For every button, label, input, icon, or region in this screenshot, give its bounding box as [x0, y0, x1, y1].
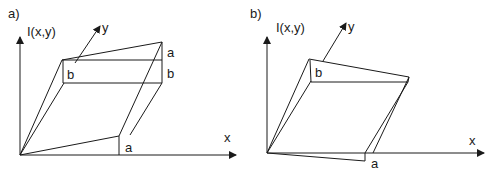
- y-axis-label: y: [348, 19, 355, 34]
- edge-label-b-left: b: [315, 65, 322, 80]
- edge-label-b-right: b: [167, 66, 174, 81]
- intensity-axis-label: I(x,y): [276, 20, 305, 35]
- y-axis: [323, 23, 346, 61]
- edge-label-a-bottom: a: [371, 156, 379, 171]
- panel-b: b) I(x,y) x y b a: [250, 6, 484, 171]
- edge-label-b-left: b: [67, 67, 74, 82]
- x-axis-label: x: [469, 133, 476, 148]
- y-axis-label: y: [102, 20, 109, 35]
- edge-label-a-top: a: [167, 45, 175, 60]
- intensity-axis-label: I(x,y): [27, 24, 56, 39]
- panel-b-label: b): [250, 6, 262, 21]
- x-axis-label: x: [224, 130, 231, 145]
- edge-label-a-bottom: a: [125, 140, 133, 155]
- surface-shape-b: [267, 59, 409, 161]
- diagram-canvas: a) I(x,y) x y a b b a b) I(x,y) x: [0, 0, 492, 175]
- surface-shape-a: [20, 42, 162, 155]
- panel-a: a) I(x,y) x y a b b a: [8, 6, 236, 155]
- panel-a-label: a): [8, 6, 20, 21]
